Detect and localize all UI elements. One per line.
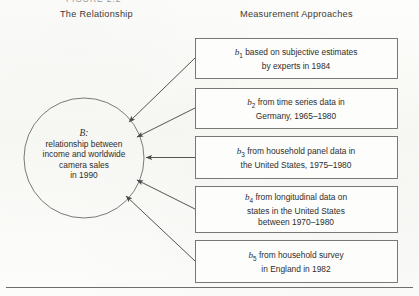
measurement-box-5-text: b5 from household survey in England in 1… xyxy=(196,250,396,275)
figure-page: FIGURE 2.2 The Relationship Measurement … xyxy=(0,0,419,296)
box-5-line-1: from household survey xyxy=(259,250,344,260)
box-1-subscript: 1 xyxy=(239,52,243,59)
box-3-line-2: the United States, 1975–1980 xyxy=(196,160,396,171)
box-2-subscript: 2 xyxy=(252,102,256,109)
box-2-line-2: Germany, 1965–1980 xyxy=(196,111,396,122)
arrow-box-2-to-circle xyxy=(137,108,195,137)
box-5-line-2: in England in 1982 xyxy=(196,264,396,275)
box-3-line-1: from household panel data in xyxy=(247,146,355,156)
measurement-box-3-text: b3 from household panel data in the Unit… xyxy=(196,146,396,171)
measurement-box-4-text: b4 from longitudinal data on states in t… xyxy=(196,192,396,228)
arrow-box-5-to-circle xyxy=(126,196,195,261)
measurement-box-1-text: b1 based on subjective estimates by expe… xyxy=(196,47,396,72)
relationship-line-4: in 1990 xyxy=(70,170,97,180)
box-3-subscript: 3 xyxy=(241,151,245,158)
footer-rule xyxy=(6,287,413,288)
relationship-symbol: B: xyxy=(79,128,88,138)
relationship-line-2: income and worldwide xyxy=(43,149,126,159)
arrow-box-4-to-circle xyxy=(137,180,195,209)
box-4-line-2: states in the United States xyxy=(196,206,396,217)
box-4-subscript: 4 xyxy=(249,197,253,204)
measurement-box-2-text: b2 from time series data in Germany, 196… xyxy=(196,97,396,122)
relationship-node-text: B: relationship between income and world… xyxy=(24,128,144,181)
relationship-line-1: relationship between xyxy=(46,139,123,149)
box-1-line-2: by experts in 1984 xyxy=(196,61,396,72)
relationship-line-3: camera sales xyxy=(59,160,109,170)
box-4-line-3: between 1970–1980 xyxy=(196,217,396,228)
box-4-line-1: from longitudinal data on xyxy=(255,192,347,202)
box-1-line-1: based on subjective estimates xyxy=(245,47,357,57)
box-2-line-1: from time series data in xyxy=(258,97,345,107)
arrow-box-1-to-circle xyxy=(129,58,195,122)
box-5-subscript: 5 xyxy=(253,255,257,262)
